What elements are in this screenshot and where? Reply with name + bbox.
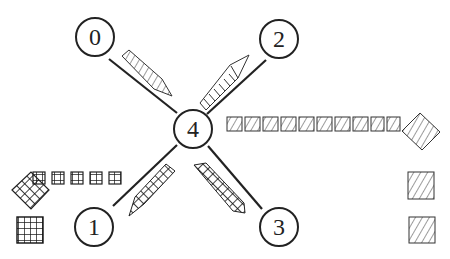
right-message-stream [227, 113, 440, 150]
node-2: 2 [260, 20, 298, 58]
right-stack [408, 172, 435, 243]
node-3: 3 [260, 208, 298, 246]
message-arrow-3-to-4 [194, 163, 245, 213]
left-message-stream [12, 172, 121, 209]
message-arrow-1-to-4 [129, 164, 175, 216]
node-0: 0 [76, 18, 114, 56]
node-4: 4 [174, 110, 212, 148]
node-1-label: 1 [88, 214, 100, 240]
node-1: 1 [75, 208, 113, 246]
left-stack [17, 217, 43, 243]
node-3-label: 3 [273, 214, 285, 240]
node-2-label: 2 [273, 26, 285, 52]
node-4-label: 4 [187, 116, 199, 142]
node-0-label: 0 [89, 24, 101, 50]
diagram-canvas: 0 2 4 1 3 [0, 0, 450, 259]
diagram-svg: 0 2 4 1 3 [0, 0, 450, 259]
